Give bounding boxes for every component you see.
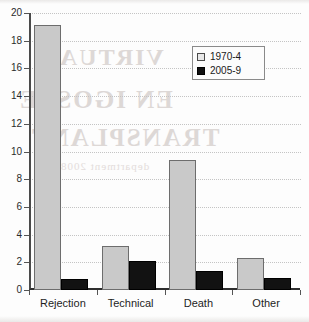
scanned-chart-page: VIRTUAL EN IGOSTE TRANSPLANT department … — [0, 0, 309, 322]
y-axis-tick-label: 2 — [0, 257, 22, 267]
y-axis-tick-label: 8 — [0, 174, 22, 184]
legend-swatch-2005-9 — [197, 67, 205, 75]
legend-entry-2005-9: 2005-9 — [197, 64, 260, 77]
bar-technical-1970-4 — [102, 246, 129, 290]
x-axis-separator — [97, 290, 98, 295]
bar-rejection-1970-4 — [34, 25, 61, 290]
y-axis-tick-label: 16 — [0, 63, 22, 73]
y-axis-tick-label: 20 — [0, 8, 22, 18]
bar-other-1970-4 — [237, 258, 264, 290]
y-axis-tick-label: 14 — [0, 91, 22, 101]
bar-rejection-2005-9 — [61, 279, 88, 290]
x-axis-separator — [29, 290, 30, 295]
y-axis-tick-label: 4 — [0, 230, 22, 240]
y-axis-tick-label: 18 — [0, 36, 22, 46]
x-axis-category-label-other: Other — [232, 297, 300, 310]
bar-chart: 02468101214161820 RejectionTechnicalDeat… — [0, 0, 309, 322]
x-axis-separator — [232, 290, 233, 295]
bar-death-2005-9 — [196, 271, 223, 290]
y-axis-tick-label: 6 — [0, 202, 22, 212]
y-axis-tick-label: 0 — [0, 285, 22, 295]
bar-death-1970-4 — [169, 160, 196, 290]
legend-label: 2005-9 — [210, 66, 241, 76]
bar-technical-2005-9 — [129, 261, 156, 290]
legend-swatch-1970-4 — [197, 53, 205, 61]
x-axis-separator — [165, 290, 166, 295]
legend-label: 1970-4 — [210, 52, 241, 62]
chart-legend: 1970-42005-9 — [192, 46, 265, 80]
x-axis-category-label-death: Death — [165, 297, 233, 310]
x-axis-separator — [300, 290, 301, 295]
y-axis-tick-label: 10 — [0, 147, 22, 157]
x-axis-category-label-technical: Technical — [97, 297, 165, 310]
legend-entry-1970-4: 1970-4 — [197, 50, 260, 63]
y-axis-tick-label: 12 — [0, 119, 22, 129]
bar-other-2005-9 — [264, 278, 291, 290]
x-axis-category-label-rejection: Rejection — [29, 297, 97, 310]
